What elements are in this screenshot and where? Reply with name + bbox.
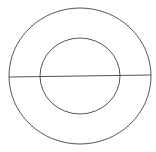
- diameter-line: [9, 75, 151, 77]
- diagram-canvas: [0, 0, 156, 152]
- concentric-circles-diagram: [0, 0, 156, 152]
